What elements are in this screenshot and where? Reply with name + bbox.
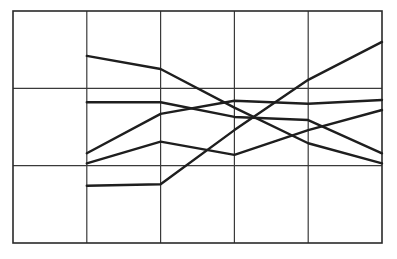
- grid-lines: [13, 11, 382, 243]
- line-chart: [0, 0, 397, 259]
- plot-frame: [13, 11, 382, 243]
